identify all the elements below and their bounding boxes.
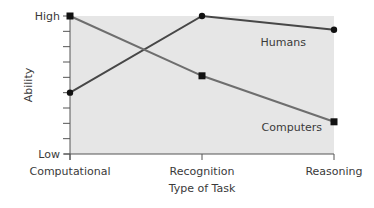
data-point-computers bbox=[331, 118, 338, 125]
y-tick-label-low: Low bbox=[38, 148, 60, 161]
x-axis-title: Type of Task bbox=[168, 182, 236, 195]
y-tick-label-high: High bbox=[35, 10, 60, 23]
series-label-computers: Computers bbox=[262, 121, 323, 134]
chart: High Low Computational Recognition Reaso… bbox=[0, 0, 374, 208]
series-label-humans: Humans bbox=[261, 36, 307, 49]
data-point-humans bbox=[199, 13, 205, 19]
data-point-humans bbox=[67, 89, 73, 95]
x-tick-label-computational: Computational bbox=[29, 165, 110, 178]
data-point-humans bbox=[331, 27, 337, 33]
data-point-computers bbox=[199, 72, 206, 79]
data-point-computers bbox=[67, 13, 74, 20]
x-tick-label-reasoning: Reasoning bbox=[305, 165, 362, 178]
x-tick-label-recognition: Recognition bbox=[170, 165, 235, 178]
y-axis-title: Ability bbox=[22, 67, 35, 102]
